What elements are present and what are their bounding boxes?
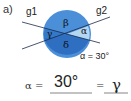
part-label: a) bbox=[3, 3, 13, 15]
beta-label: β bbox=[63, 17, 69, 28]
given-value: α = 30° bbox=[80, 51, 109, 61]
answer-value-2: γ bbox=[112, 76, 121, 94]
gamma-label: γ bbox=[47, 29, 52, 39]
delta-label: δ bbox=[63, 39, 69, 50]
answer-value-1: 30° bbox=[54, 73, 78, 91]
g1-label: g1 bbox=[26, 6, 37, 17]
alpha-label: α bbox=[81, 26, 87, 36]
g2-label: g2 bbox=[96, 5, 107, 16]
answer-equals: = bbox=[96, 80, 104, 91]
answer-prefix: α = bbox=[25, 80, 43, 91]
